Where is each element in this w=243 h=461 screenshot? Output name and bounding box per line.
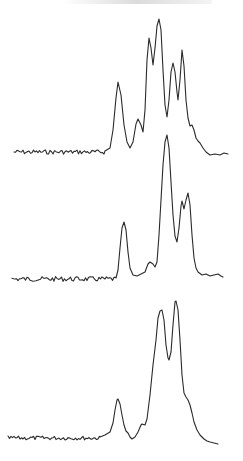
spectra-figure	[0, 0, 243, 461]
spectrum-trace-middle	[12, 135, 223, 281]
spectrum-trace-top	[14, 19, 228, 155]
spectrum-trace-bottom	[8, 301, 218, 444]
